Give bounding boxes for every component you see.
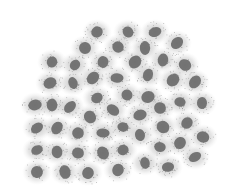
scatter-plot — [0, 0, 233, 196]
